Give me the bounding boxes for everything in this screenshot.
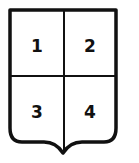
quarter-1-label: 1 [25, 36, 49, 56]
quarter-4-label: 4 [78, 102, 102, 122]
quarter-2-label: 2 [78, 36, 102, 56]
shield-outline [0, 0, 139, 163]
quarter-3-label: 3 [25, 102, 49, 122]
